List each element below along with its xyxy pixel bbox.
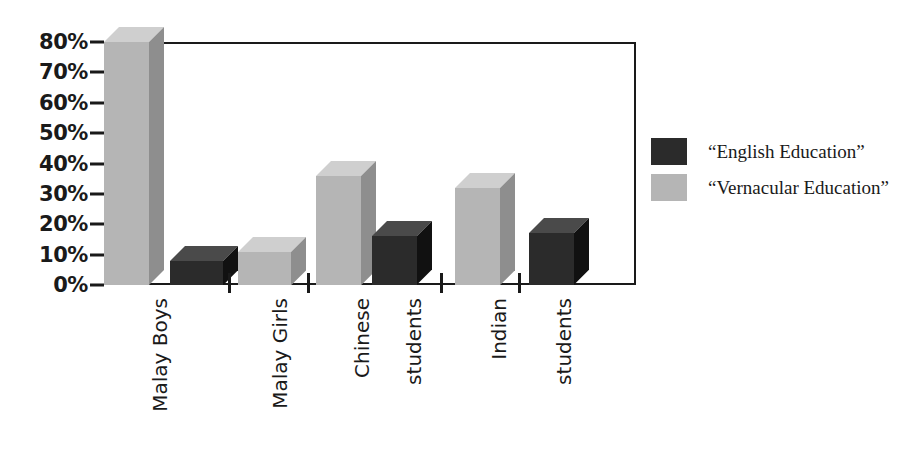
y-axis-tick-mark bbox=[90, 41, 104, 44]
bar-front-face bbox=[316, 176, 361, 285]
x-axis-tick-label: students bbox=[552, 298, 576, 385]
bar-front-face bbox=[529, 233, 574, 285]
x-axis-tick-label: Malay Girls bbox=[268, 298, 292, 409]
x-axis-tick-label: Indian bbox=[487, 298, 511, 360]
y-axis-tick-mark bbox=[90, 132, 104, 135]
legend-label: “English Education” bbox=[708, 141, 865, 163]
bar[interactable] bbox=[170, 261, 223, 285]
bar[interactable] bbox=[529, 233, 574, 285]
y-axis-tick-label: 70% bbox=[0, 62, 88, 83]
y-axis-tick-mark bbox=[90, 284, 104, 287]
y-axis-tick-label: 20% bbox=[0, 214, 88, 235]
y-axis-tick-label: 50% bbox=[0, 123, 88, 144]
bar[interactable] bbox=[316, 176, 361, 285]
y-axis-tick-label: 40% bbox=[0, 153, 88, 174]
bar-front-face bbox=[455, 188, 500, 285]
y-axis-tick-mark bbox=[90, 101, 104, 104]
bar[interactable] bbox=[455, 188, 500, 285]
bar[interactable] bbox=[104, 42, 149, 285]
y-axis-tick-mark bbox=[90, 192, 104, 195]
y-axis-tick-mark bbox=[90, 253, 104, 256]
bar-side-face bbox=[291, 237, 307, 285]
legend-item[interactable]: “English Education” bbox=[651, 136, 901, 167]
bar-front-face bbox=[170, 261, 223, 285]
bar-front-face bbox=[372, 236, 417, 285]
bar-side-face bbox=[149, 27, 165, 285]
x-axis-tick-label: Malay Boys bbox=[148, 298, 172, 412]
bar[interactable] bbox=[372, 236, 417, 285]
bar-chart: 80%70%60%50%40%30%20%10%0% Malay BoysMal… bbox=[0, 0, 912, 450]
y-axis: 80%70%60%50%40%30%20%10%0% bbox=[0, 0, 88, 450]
y-axis-tick-mark bbox=[90, 71, 104, 74]
y-axis-tick-label: 80% bbox=[0, 32, 88, 53]
legend-swatch bbox=[651, 138, 687, 165]
y-axis-tick-label: 10% bbox=[0, 244, 88, 265]
x-axis-tick-label: Chinese bbox=[350, 298, 374, 378]
y-axis-tick-mark bbox=[90, 223, 104, 226]
bar-front-face bbox=[238, 252, 291, 285]
legend-swatch bbox=[651, 174, 687, 201]
bar-side-face bbox=[500, 173, 516, 285]
chart-legend: “English Education”“Vernacular Education… bbox=[651, 136, 901, 208]
y-axis-tick-mark bbox=[90, 162, 104, 165]
y-axis-tick-label: 30% bbox=[0, 183, 88, 204]
legend-item[interactable]: “Vernacular Education” bbox=[651, 172, 901, 203]
y-axis-tick-label: 60% bbox=[0, 92, 88, 113]
bar-front-face bbox=[104, 42, 149, 285]
bar[interactable] bbox=[238, 252, 291, 285]
y-axis-tick-label: 0% bbox=[0, 275, 88, 296]
bar-side-face bbox=[223, 246, 239, 285]
legend-label: “Vernacular Education” bbox=[708, 177, 889, 199]
bar-side-face bbox=[417, 221, 433, 285]
bar-side-face bbox=[574, 218, 590, 285]
x-axis-tick-label: students bbox=[402, 298, 426, 385]
